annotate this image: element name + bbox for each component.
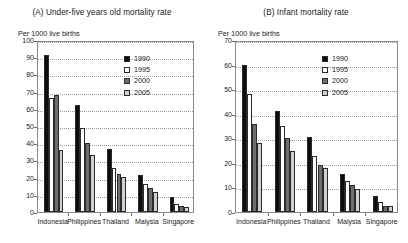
bar-philippines-2000 bbox=[85, 143, 90, 212]
y-axis-tick-mark bbox=[232, 139, 235, 140]
y-axis-tick-mark bbox=[34, 161, 37, 162]
panel-infant-mortality: (B) Infant mortality rate Per 1000 live … bbox=[204, 0, 408, 243]
y-axis-tick-mark bbox=[232, 41, 235, 42]
bar-indonesia-2000 bbox=[252, 124, 257, 212]
x-axis-tick-mark bbox=[365, 213, 366, 216]
y-axis-tick-label: 0 bbox=[215, 209, 232, 216]
y-axis-tick-label: 60 bbox=[17, 106, 34, 113]
x-axis-tick-mark bbox=[100, 213, 101, 216]
legend-swatch-icon bbox=[322, 90, 328, 96]
x-axis-tick-mark bbox=[131, 213, 132, 216]
bar-malysia-2005 bbox=[355, 189, 360, 212]
legend-item-1995: 1995 bbox=[124, 66, 150, 74]
y-axis-tick-label: 100 bbox=[17, 37, 34, 44]
bar-malysia-2005 bbox=[153, 192, 158, 212]
y-axis-tick-mark bbox=[34, 41, 37, 42]
panel-b-bars bbox=[236, 42, 397, 212]
panel-a-plot-area bbox=[37, 41, 194, 213]
x-axis-tick-mark bbox=[163, 213, 164, 216]
panel-a-title: (A) Under-five years old mortality rate bbox=[0, 8, 204, 17]
bar-philippines-1995 bbox=[280, 126, 285, 212]
legend-swatch-icon bbox=[124, 67, 130, 73]
y-axis-tick-mark bbox=[232, 90, 235, 91]
bar-singapore-2000 bbox=[179, 206, 184, 212]
y-axis-tick-label: 40 bbox=[17, 140, 34, 147]
x-axis-category-label: Singapore bbox=[157, 218, 200, 225]
y-axis-tick-label: 20 bbox=[215, 160, 232, 167]
chart-figure: (A) Under-five years old mortality rate … bbox=[0, 0, 408, 243]
legend-label: 2000 bbox=[134, 77, 150, 85]
y-axis-tick-label: 90 bbox=[17, 54, 34, 61]
bar-thailand-1990 bbox=[307, 137, 312, 212]
y-axis-tick-mark bbox=[34, 110, 37, 111]
y-axis-tick-label: 10 bbox=[215, 184, 232, 191]
legend-label: 2005 bbox=[332, 89, 348, 97]
x-axis-category-label: Singapore bbox=[359, 218, 404, 225]
y-axis-tick-label: 70 bbox=[17, 89, 34, 96]
legend-item-2005: 2005 bbox=[124, 89, 150, 97]
y-axis-tick-mark bbox=[34, 179, 37, 180]
bar-thailand-1990 bbox=[107, 149, 112, 212]
bar-indonesia-2000 bbox=[54, 95, 59, 212]
legend-swatch-icon bbox=[322, 67, 328, 73]
bar-philippines-1995 bbox=[80, 128, 85, 212]
legend-item-2000: 2000 bbox=[322, 77, 348, 85]
panel-b-legend: 1990199520002005 bbox=[322, 55, 348, 97]
y-axis-tick-mark bbox=[34, 196, 37, 197]
panel-b-plot-area bbox=[235, 41, 398, 213]
bar-malysia-1995 bbox=[345, 181, 350, 212]
legend-swatch-icon bbox=[124, 56, 130, 62]
bar-philippines-1990 bbox=[275, 111, 280, 212]
panel-b-title: (B) Infant mortality rate bbox=[204, 8, 408, 17]
bar-malysia-1990 bbox=[340, 174, 345, 212]
bar-thailand-2005 bbox=[121, 177, 126, 212]
bar-philippines-2005 bbox=[90, 155, 95, 212]
y-axis-tick-mark bbox=[232, 213, 235, 214]
bar-indonesia-1995 bbox=[49, 98, 54, 212]
legend-item-1995: 1995 bbox=[322, 66, 348, 74]
legend-label: 2000 bbox=[332, 77, 348, 85]
panel-a-bars bbox=[38, 42, 193, 212]
bar-malysia-2000 bbox=[350, 185, 355, 212]
legend-swatch-icon bbox=[124, 90, 130, 96]
x-axis-tick-mark bbox=[333, 213, 334, 216]
bar-singapore-1990 bbox=[373, 196, 378, 212]
y-axis-tick-mark bbox=[34, 75, 37, 76]
legend-item-1990: 1990 bbox=[322, 55, 348, 63]
bar-singapore-1995 bbox=[174, 204, 179, 212]
y-axis-tick-mark bbox=[232, 188, 235, 189]
bar-indonesia-1990 bbox=[242, 65, 247, 212]
y-axis-tick-label: 40 bbox=[215, 111, 232, 118]
bar-thailand-1995 bbox=[312, 156, 317, 213]
y-axis-tick-label: 10 bbox=[17, 192, 34, 199]
y-axis-tick-label: 60 bbox=[215, 62, 232, 69]
bar-malysia-1995 bbox=[143, 184, 148, 212]
panel-a-legend: 1990199520002005 bbox=[124, 55, 150, 97]
legend-label: 1995 bbox=[134, 66, 150, 74]
y-axis-tick-label: 50 bbox=[215, 86, 232, 93]
y-axis-tick-label: 30 bbox=[215, 135, 232, 142]
bar-singapore-2005 bbox=[388, 206, 393, 212]
legend-item-2005: 2005 bbox=[322, 89, 348, 97]
legend-label: 1995 bbox=[332, 66, 348, 74]
y-axis-tick-mark bbox=[34, 144, 37, 145]
y-axis-tick-mark bbox=[34, 93, 37, 94]
legend-label: 1990 bbox=[134, 55, 150, 63]
bar-malysia-1990 bbox=[138, 175, 143, 212]
x-axis-tick-mark bbox=[268, 213, 269, 216]
y-axis-tick-label: 30 bbox=[17, 157, 34, 164]
bar-thailand-2005 bbox=[323, 168, 328, 212]
y-axis-tick-mark bbox=[34, 58, 37, 59]
bar-malysia-2000 bbox=[148, 188, 153, 212]
x-axis-tick-mark bbox=[300, 213, 301, 216]
y-axis-tick-label: 0 bbox=[17, 209, 34, 216]
y-axis-tick-mark bbox=[232, 164, 235, 165]
x-axis-tick-mark bbox=[68, 213, 69, 216]
y-axis-tick-label: 50 bbox=[17, 123, 34, 130]
bar-philippines-2000 bbox=[285, 138, 290, 212]
bar-philippines-2005 bbox=[290, 151, 295, 212]
y-axis-tick-mark bbox=[34, 213, 37, 214]
legend-item-2000: 2000 bbox=[124, 77, 150, 85]
legend-swatch-icon bbox=[322, 56, 328, 62]
bar-indonesia-2005 bbox=[59, 150, 64, 212]
